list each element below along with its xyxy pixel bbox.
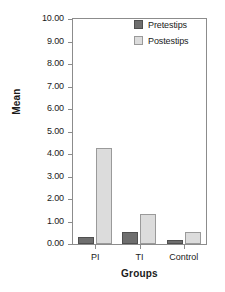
bar <box>96 148 112 244</box>
x-axis-tick-mark <box>184 245 185 249</box>
bar-group <box>162 19 206 244</box>
y-axis-tick-label: 3.00 <box>47 171 64 181</box>
legend: PretestipsPostestips <box>134 17 189 49</box>
y-axis-tick-label: 6.00 <box>47 103 64 113</box>
bar <box>78 237 94 244</box>
y-axis-tick-mark <box>68 109 72 110</box>
y-axis-tick-mark <box>68 64 72 65</box>
y-axis-title: Mean <box>11 72 22 132</box>
y-axis-tick-label: 0.00 <box>47 238 64 248</box>
legend-swatch-icon <box>134 36 143 45</box>
y-axis-tick-mark <box>68 19 72 20</box>
bars-layer <box>73 19 206 244</box>
x-axis-title: Groups <box>72 268 207 279</box>
y-axis-tick-mark <box>68 177 72 178</box>
y-axis-tick-mark <box>68 87 72 88</box>
bar-group <box>73 19 117 244</box>
x-axis-tick-mark <box>140 245 141 249</box>
legend-swatch-icon <box>134 20 143 29</box>
y-axis-tick-label: 5.00 <box>47 126 64 136</box>
x-axis-tick-label: PI <box>91 252 100 262</box>
legend-item-label: Postestips <box>148 36 189 46</box>
y-axis-tick-mark <box>68 154 72 155</box>
legend-item-label: Pretestips <box>148 20 187 30</box>
y-axis-tick-label: 7.00 <box>47 81 64 91</box>
y-axis-tick-label: 1.00 <box>47 216 64 226</box>
y-axis-tick-label: 9.00 <box>47 36 64 46</box>
bar <box>122 232 138 244</box>
y-axis-tick-label: 2.00 <box>47 193 64 203</box>
y-axis-tick-mark <box>68 132 72 133</box>
x-axis-tick-label: Control <box>169 252 198 262</box>
y-axis-tick-label: 8.00 <box>47 58 64 68</box>
x-axis-tick-mark <box>95 245 96 249</box>
y-axis-tick-mark <box>68 199 72 200</box>
y-axis-tick-mark <box>68 222 72 223</box>
bar <box>185 232 201 244</box>
bar-group <box>117 19 161 244</box>
y-axis-tick-mark <box>68 42 72 43</box>
y-axis-tick-mark <box>68 244 72 245</box>
y-axis-tick-label: 4.00 <box>47 148 64 158</box>
legend-item: Pretestips <box>134 17 189 32</box>
legend-item: Postestips <box>134 33 189 48</box>
bar-chart: Mean 0.001.002.003.004.005.006.007.008.0… <box>0 0 225 292</box>
y-axis-tick-label: 10.00 <box>42 13 64 23</box>
x-axis-tick-label: TI <box>136 252 144 262</box>
bar <box>140 214 156 244</box>
bar <box>167 240 183 245</box>
